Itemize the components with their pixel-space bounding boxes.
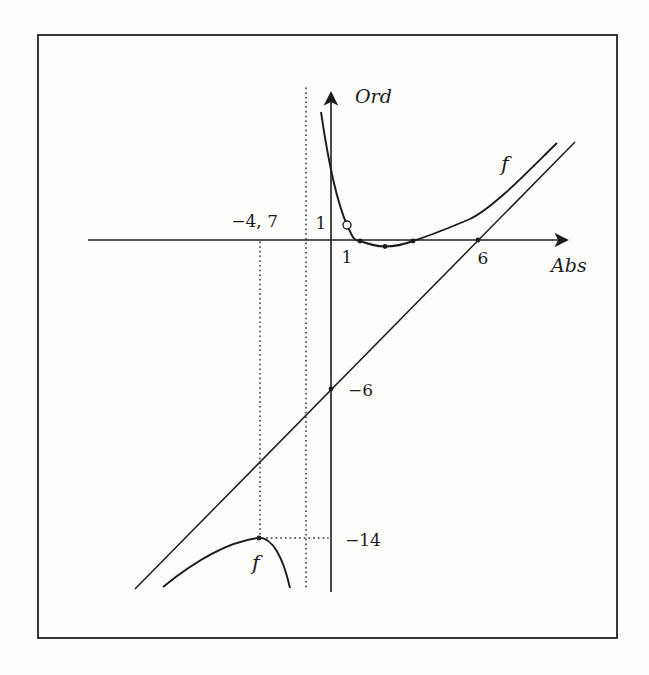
- curve-label-upper: f: [499, 152, 512, 176]
- marked-point-line-x-intercept: [476, 238, 481, 243]
- curve-label-lower: f: [250, 551, 263, 575]
- scanned-figure-page: Ord Abs f f 1 1 6 −4, 7 −6 −14: [0, 0, 649, 675]
- tick-label-ordinate-minus-14: −14: [345, 530, 381, 550]
- tick-label-abscissa-1: 1: [342, 247, 353, 267]
- open-point: [343, 221, 351, 229]
- tick-label-abscissa-6: 6: [478, 248, 489, 268]
- marked-point-minimum: [383, 244, 388, 249]
- figure-frame: [38, 35, 617, 638]
- tick-label-ordinate-1: 1: [316, 213, 327, 233]
- curve-f-left-branch: [163, 538, 290, 588]
- marked-point-local-maximum: [257, 536, 262, 541]
- tick-label-abscissa-minus-4-7: −4, 7: [231, 211, 278, 231]
- marked-point-zero-left: [358, 239, 363, 244]
- x-axis-label: Abs: [549, 254, 587, 276]
- function-plot: Ord Abs f f 1 1 6 −4, 7 −6 −14: [0, 0, 649, 675]
- oblique-asymptote-line: [135, 142, 575, 589]
- y-axis-label: Ord: [355, 85, 392, 107]
- curve-f-right-branch: [321, 112, 557, 247]
- tick-label-ordinate-minus-6: −6: [348, 380, 373, 400]
- marked-point-zero-right: [411, 239, 416, 244]
- marked-point-line-y-intercept: [329, 387, 334, 392]
